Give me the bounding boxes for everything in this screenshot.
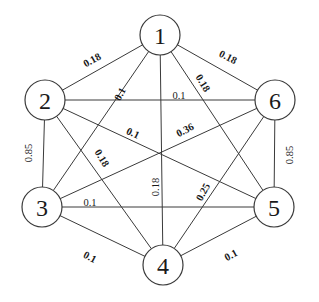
edge-1-6 — [177, 45, 257, 90]
node-2: 2 — [25, 80, 65, 120]
edge-6-5 — [274, 120, 275, 187]
edge-weight-label-3-6: 0.36 — [174, 121, 195, 139]
node-label: 2 — [39, 88, 51, 114]
weighted-graph-diagram: 0.180.180.10.180.180.10.10.180.850.360.1… — [0, 0, 319, 302]
edges-layer — [43, 45, 275, 257]
edge-1-2 — [62, 45, 142, 90]
node-1: 1 — [140, 15, 180, 55]
edge-6-4 — [174, 117, 264, 249]
node-label: 6 — [269, 88, 281, 114]
edge-weight-label-3-4: 0.1 — [82, 249, 99, 265]
node-3: 3 — [22, 187, 62, 227]
node-5: 5 — [254, 187, 294, 227]
edge-weight-label-6-5: 0.85 — [284, 146, 295, 164]
edge-weight-label-4-5: 0.1 — [223, 247, 240, 263]
edge-weight-label-2-3: 0.85 — [23, 144, 34, 162]
edge-1-3 — [53, 51, 148, 190]
edge-weight-label-2-4: 0.18 — [92, 147, 111, 168]
edge-weight-label-3-5: 0.1 — [83, 197, 96, 208]
edge-1-5 — [171, 52, 263, 191]
edge-labels-layer: 0.180.180.10.180.180.10.10.180.850.360.1… — [23, 48, 295, 265]
edge-weight-label-1-4: 0.18 — [150, 178, 161, 196]
edge-weight-label-6-4: 0.25 — [194, 181, 212, 202]
nodes-layer: 123456 — [22, 15, 295, 285]
node-4: 4 — [143, 245, 183, 285]
edge-2-3 — [43, 120, 45, 187]
node-label: 5 — [268, 195, 280, 221]
node-label: 1 — [154, 23, 166, 49]
edge-weight-label-2-6: 0.1 — [172, 90, 185, 101]
edge-weight-label-1-6: 0.18 — [217, 48, 238, 66]
node-label: 4 — [157, 253, 169, 279]
edge-1-4 — [160, 55, 162, 245]
edge-weight-label-1-2: 0.18 — [81, 51, 102, 70]
node-label: 3 — [36, 195, 48, 221]
node-6: 6 — [255, 80, 295, 120]
